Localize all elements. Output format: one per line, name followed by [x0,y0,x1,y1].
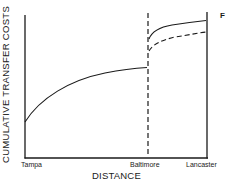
plot-area [0,0,229,184]
x-axis-label: DISTANCE [92,171,141,181]
y-axis-label: CUMULATIVE TRANSFER COSTS [1,6,11,163]
tick-label-lancaster: Lancaster [186,161,217,168]
transfer-cost-diagram: CUMULATIVE TRANSFER COSTS Tampa Baltimor… [0,0,229,184]
cost-curve-baltimore-lancaster-dashed [149,32,206,51]
tick-label-baltimore: Baltimore [130,161,160,168]
f-annotation-label: F [220,12,225,20]
tick-label-tampa: Tampa [21,161,42,168]
cost-curve-tampa-baltimore [25,68,147,123]
